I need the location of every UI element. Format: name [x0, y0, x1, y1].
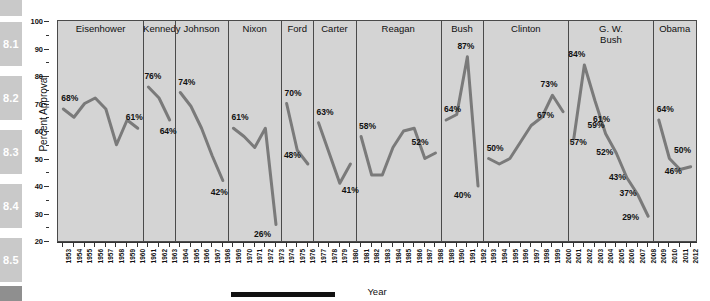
x-axis-tick [551, 243, 552, 247]
panel-label-eisenhower: Eisenhower [58, 24, 143, 35]
x-axis-year-label: 1977 [320, 249, 327, 263]
data-label: 42% [211, 187, 228, 197]
data-label: 63% [317, 107, 334, 117]
approval-line-reagan [361, 128, 435, 175]
x-axis-tick [211, 243, 212, 247]
x-axis-tick [562, 243, 563, 247]
y-axis-tick [44, 76, 49, 77]
y-axis-minor-tick [46, 200, 49, 201]
x-axis-year-label: 2008 [650, 249, 657, 263]
x-axis-year-label: 1992 [480, 249, 487, 263]
panel-divider [356, 21, 357, 241]
x-axis-year-label: 1959 [129, 249, 136, 263]
data-label: 76% [144, 71, 161, 81]
data-label: 59% [588, 120, 605, 130]
approval-line-carter [319, 123, 351, 184]
x-axis-tick [318, 243, 319, 247]
x-axis-year-label: 2003 [597, 249, 604, 263]
x-axis-year-label: 1999 [554, 249, 561, 263]
data-label: 64% [160, 126, 177, 136]
x-axis-year-label: 1964 [182, 249, 189, 263]
y-axis-minor-tick [46, 35, 49, 36]
x-axis-tick [73, 243, 74, 247]
x-axis-tick [520, 243, 521, 247]
x-axis-tick [488, 243, 489, 247]
x-axis-tick [573, 243, 574, 247]
panel-divider [313, 21, 314, 241]
x-axis-tick [594, 243, 595, 247]
x-axis-year-label: 2005 [618, 249, 625, 263]
x-axis-tick [615, 243, 616, 247]
x-axis-year-label: 1988 [437, 249, 444, 263]
x-axis-tick [647, 243, 648, 247]
x-axis-tick [498, 243, 499, 247]
x-axis-year-label: 2004 [607, 249, 614, 263]
data-label: 46% [665, 166, 682, 176]
x-axis: Year 19531954195519561957195819591960196… [57, 242, 697, 301]
data-label: 61% [126, 112, 143, 122]
x-axis-year-label: 1969 [235, 249, 242, 263]
panel-divider [441, 21, 442, 241]
approval-line-nixon [233, 128, 276, 224]
x-axis-year-label: 1985 [405, 249, 412, 263]
x-axis-year-label: 1994 [501, 249, 508, 263]
data-label: 67% [537, 110, 554, 120]
x-axis-year-label: 1956 [97, 249, 104, 263]
x-axis-title: Year [57, 286, 697, 297]
chart-page: 8.18.28.38.48.5 Percent Approval 2030405… [0, 0, 710, 301]
plot-area: EisenhowerKennedyJohnsonNixonFordCarterR… [57, 20, 697, 242]
x-axis-tick [243, 243, 244, 247]
panel-label-reagan: Reagan [356, 24, 441, 35]
panel-label-nixon: Nixon [228, 24, 281, 35]
x-axis-tick [668, 243, 669, 247]
panel-divider [228, 21, 229, 241]
x-axis-tick [658, 243, 659, 247]
x-axis-year-label: 2001 [575, 249, 582, 263]
x-axis-tick [509, 243, 510, 247]
y-axis-tick-label: 20 [35, 237, 43, 246]
x-axis-tick [392, 243, 393, 247]
x-axis-year-label: 1971 [256, 249, 263, 263]
approval-line-clinton [489, 95, 563, 164]
x-axis-tick [254, 243, 255, 247]
data-label: 37% [620, 188, 637, 198]
x-axis-tick [424, 243, 425, 247]
y-axis-tick [44, 104, 49, 105]
x-axis-year-label: 1965 [193, 249, 200, 263]
y-axis-minor-tick [46, 117, 49, 118]
x-axis-tick [456, 243, 457, 247]
x-axis-year-label: 1961 [150, 249, 157, 263]
x-axis-tick [434, 243, 435, 247]
x-axis-year-label: 1962 [161, 249, 168, 263]
x-axis-year-label: 1984 [395, 249, 402, 263]
x-axis-tick [147, 243, 148, 247]
x-axis-year-label: 1976 [309, 249, 316, 263]
x-axis-year-label: 2009 [660, 249, 667, 263]
y-axis-tick-label: 90 [35, 44, 43, 53]
data-label: 64% [657, 104, 674, 114]
x-axis-tick [190, 243, 191, 247]
data-label: 40% [454, 190, 471, 200]
x-axis-year-label: 1981 [363, 249, 370, 263]
y-axis-tick [44, 159, 49, 160]
y-axis-tick-label: 50 [35, 154, 43, 163]
data-label: 64% [444, 104, 461, 114]
y-axis-tick [44, 214, 49, 215]
x-axis-year-label: 1980 [352, 249, 359, 263]
x-axis-tick [328, 243, 329, 247]
y-axis-minor-tick [46, 145, 49, 146]
x-axis-tick [690, 243, 691, 247]
panel-divider [653, 21, 654, 241]
data-label: 73% [540, 79, 557, 89]
y-axis-tick-label: 60 [35, 127, 43, 136]
x-axis-tick [307, 243, 308, 247]
x-axis-tick [445, 243, 446, 247]
panel-label-carter: Carter [313, 24, 356, 35]
x-axis-year-label: 1955 [86, 249, 93, 263]
x-axis-year-label: 2012 [692, 249, 699, 263]
panel-label-g-w-bush: G. W. Bush [568, 24, 653, 45]
x-axis-tick [232, 243, 233, 247]
margin-tab-bottom [0, 286, 22, 301]
x-axis-year-label: 1958 [118, 249, 125, 263]
panel-label-kennedy: Kennedy [143, 24, 175, 35]
